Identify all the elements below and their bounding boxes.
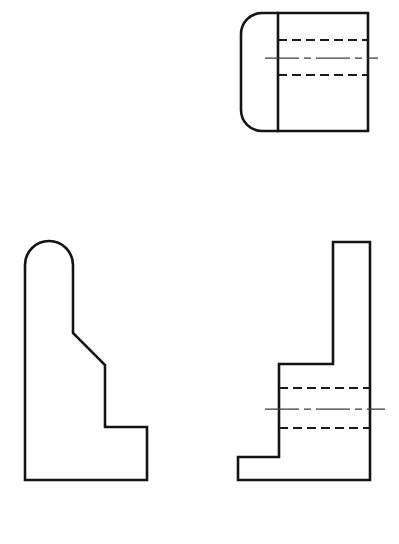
top-view (241, 13, 378, 131)
drawing-sheet (0, 0, 399, 544)
engineering-drawing-canvas (0, 0, 399, 544)
top-view-outline (241, 13, 368, 131)
side-view-outline (238, 242, 370, 480)
front-view (25, 241, 147, 480)
front-view-outline (25, 241, 147, 480)
side-view (238, 242, 385, 480)
